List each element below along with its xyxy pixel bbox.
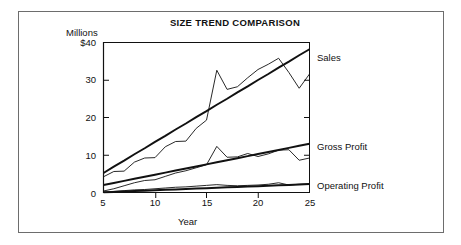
series-label-gross-profit: Gross Profit	[317, 141, 367, 152]
x-tick-label-20: 20	[246, 197, 270, 208]
x-tick-label-5: 5	[91, 197, 115, 208]
y-tick-label-20: 20	[62, 112, 96, 123]
series-label-operating-profit: Operating Profit	[317, 180, 384, 191]
x-tick-label-10: 10	[143, 197, 167, 208]
x-tick-label-15: 15	[195, 197, 219, 208]
y-tick-label-40: $40	[62, 37, 96, 48]
x-axis-title: Year	[178, 216, 197, 227]
chart-page: SIZE TREND COMPARISON Millions $40 30 20…	[0, 0, 461, 245]
series-label-sales: Sales	[317, 52, 341, 63]
y-tick-label-10: 10	[62, 150, 96, 161]
chart-title: SIZE TREND COMPARISON	[135, 17, 335, 28]
y-tick-label-30: 30	[62, 74, 96, 85]
x-tick-label-25: 25	[298, 197, 322, 208]
